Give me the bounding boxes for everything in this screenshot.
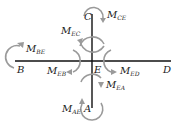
moment-label-ce: MCE xyxy=(106,9,127,21)
moment-arrow-ed-icon xyxy=(104,50,117,75)
moment-label-ed: MED xyxy=(119,65,140,77)
moment-label-ea: MEA xyxy=(105,79,126,91)
joint-label-a: A xyxy=(83,103,91,114)
joint-label-d: D xyxy=(162,64,171,75)
moment-label-ae: MAE xyxy=(61,103,82,115)
joint-label-e: E xyxy=(93,64,102,75)
moment-diagram: C B D E A MCE MEC MBE MEB MED MEA MAE xyxy=(0,0,174,137)
moment-arrow-eb-icon xyxy=(66,50,80,75)
joint-label-c: C xyxy=(84,11,92,22)
moment-label-ec: MEC xyxy=(60,25,81,37)
joint-label-b: B xyxy=(16,64,24,75)
moment-label-be: MBE xyxy=(25,43,46,55)
moment-label-eb: MEB xyxy=(46,65,67,77)
